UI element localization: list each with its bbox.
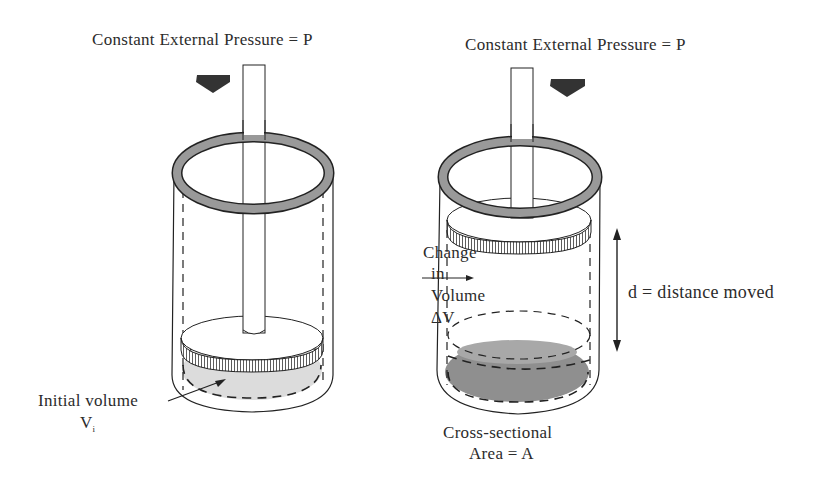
area-label-line1: Cross-sectional — [443, 423, 552, 443]
right-title: Constant External Pressure = P — [465, 35, 686, 55]
initial-volume-subscript: i — [93, 424, 96, 434]
area-label-line2: Area = A — [469, 444, 534, 464]
initial-volume-v: V — [80, 413, 93, 432]
piston-diagram — [0, 0, 816, 491]
right-cylinder — [437, 68, 621, 414]
initial-volume-label: Initial volume — [38, 391, 138, 411]
initial-volume-symbol: Vi — [80, 413, 95, 434]
change-label-line2: in — [431, 264, 445, 284]
left-piston-rod — [243, 65, 265, 333]
left-cylinder — [168, 65, 333, 412]
left-pressure-arrow-icon — [196, 75, 230, 93]
right-pressure-arrow-icon — [550, 79, 585, 97]
change-label-line4: ΔV — [431, 308, 455, 328]
change-label-line3: Volume — [431, 286, 485, 306]
change-label-line1: Change — [423, 243, 477, 263]
distance-label: d = distance moved — [628, 282, 774, 303]
left-title: Constant External Pressure = P — [92, 30, 313, 50]
